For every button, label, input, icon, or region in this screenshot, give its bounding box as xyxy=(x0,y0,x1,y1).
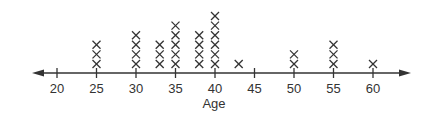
x-axis-ticks: 202530354045505560 xyxy=(50,68,380,96)
x-mark-icon xyxy=(330,50,338,58)
x-mark-icon xyxy=(156,41,164,49)
x-mark-icon xyxy=(93,50,101,58)
x-mark-icon xyxy=(369,60,377,68)
tick-label: 40 xyxy=(208,81,222,96)
tick-label: 60 xyxy=(366,81,380,96)
x-mark-icon xyxy=(132,50,140,58)
tick-label: 50 xyxy=(287,81,301,96)
x-mark-icon xyxy=(195,50,203,58)
x-mark-icon xyxy=(211,50,219,58)
x-mark-icon xyxy=(156,60,164,68)
data-marks xyxy=(93,12,378,68)
tick-label: 55 xyxy=(326,81,340,96)
x-mark-icon xyxy=(330,41,338,49)
x-mark-icon xyxy=(132,60,140,68)
x-mark-icon xyxy=(93,41,101,49)
x-mark-icon xyxy=(235,60,243,68)
x-mark-icon xyxy=(211,41,219,49)
x-mark-icon xyxy=(172,41,180,49)
x-axis xyxy=(32,70,411,77)
x-mark-icon xyxy=(195,41,203,49)
x-axis-title: Age xyxy=(202,96,225,111)
tick-label: 45 xyxy=(247,81,261,96)
x-mark-icon xyxy=(290,50,298,58)
x-mark-icon xyxy=(156,50,164,58)
tick-label: 20 xyxy=(50,81,64,96)
x-mark-icon xyxy=(172,31,180,39)
x-mark-icon xyxy=(93,60,101,68)
tick-label: 35 xyxy=(168,81,182,96)
dot-plot-chart: 202530354045505560 Age xyxy=(0,0,427,119)
x-mark-icon xyxy=(211,60,219,68)
x-mark-icon xyxy=(211,12,219,20)
x-mark-icon xyxy=(211,31,219,39)
x-mark-icon xyxy=(172,22,180,30)
x-mark-icon xyxy=(172,50,180,58)
x-mark-icon xyxy=(132,41,140,49)
x-mark-icon xyxy=(211,22,219,30)
x-mark-icon xyxy=(290,60,298,68)
x-mark-icon xyxy=(195,31,203,39)
x-mark-icon xyxy=(132,31,140,39)
tick-label: 30 xyxy=(129,81,143,96)
x-mark-icon xyxy=(330,60,338,68)
x-mark-icon xyxy=(172,60,180,68)
tick-label: 25 xyxy=(89,81,103,96)
left-arrow-icon xyxy=(32,70,44,77)
right-arrow-icon xyxy=(399,70,411,77)
x-mark-icon xyxy=(195,60,203,68)
